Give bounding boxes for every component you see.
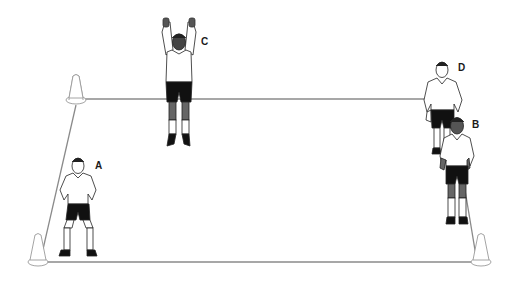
player-label-a: A [95,160,102,171]
player-a-figure [59,158,97,256]
player-label-d: D [458,62,465,73]
player-c-figure [162,18,196,146]
cone-icon [471,234,491,267]
cone-icon [66,75,86,105]
player-label-c: C [201,36,208,47]
field-canvas [0,0,517,281]
drill-diagram: C D B A [0,0,517,281]
player-label-b: B [472,119,479,130]
field-lines [41,99,476,262]
